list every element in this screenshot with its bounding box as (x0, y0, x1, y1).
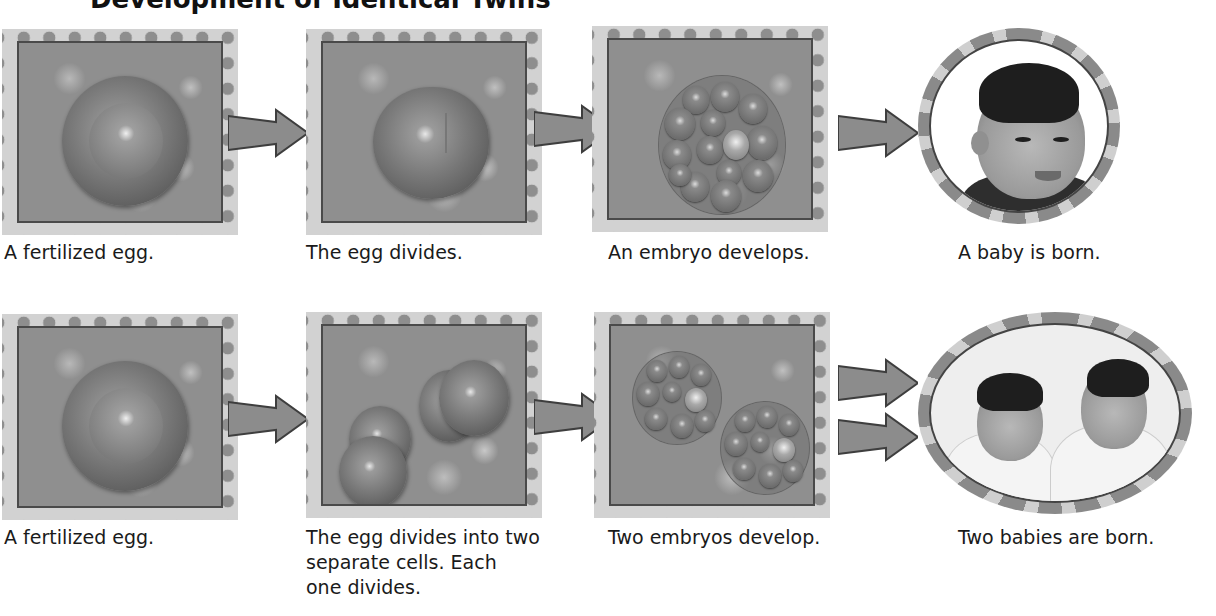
fertilized-egg-panel (2, 314, 238, 520)
caption: An embryo develops. (608, 240, 810, 265)
arrow-right-icon (228, 394, 308, 444)
twins-photo-frame (918, 312, 1192, 514)
two-dividing-cells-panel (306, 312, 542, 518)
embryo (633, 352, 721, 444)
caption: A fertilized egg. (4, 525, 154, 550)
arrow-right-icon (838, 108, 918, 158)
dividing-cell (439, 360, 509, 436)
caption: A fertilized egg. (4, 240, 154, 265)
embryo (721, 402, 809, 494)
diagram-title: Development of Identical Twins (90, 0, 551, 14)
fertilized-egg-panel (2, 29, 238, 235)
embryo (659, 76, 785, 214)
nucleus (89, 103, 163, 179)
dividing-cell (373, 87, 489, 199)
two-embryos-panel (594, 312, 830, 518)
baby-photo-frame (918, 28, 1120, 224)
caption: The egg divides. (306, 240, 463, 265)
caption: Two embryos develop. (608, 525, 820, 550)
twins-photo (929, 323, 1181, 503)
caption: Two babies are born. (958, 525, 1154, 550)
baby-photo (929, 39, 1109, 213)
caption: A baby is born. (958, 240, 1101, 265)
dividing-cell (339, 436, 407, 506)
arrow-right-icon (228, 108, 308, 158)
arrow-right-icon (838, 358, 918, 408)
arrow-right-icon (838, 412, 918, 462)
dividing-egg-panel (306, 29, 542, 235)
nucleus (89, 388, 163, 464)
caption: The egg divides into two separate cells.… (306, 525, 540, 600)
embryo-panel (592, 26, 828, 232)
